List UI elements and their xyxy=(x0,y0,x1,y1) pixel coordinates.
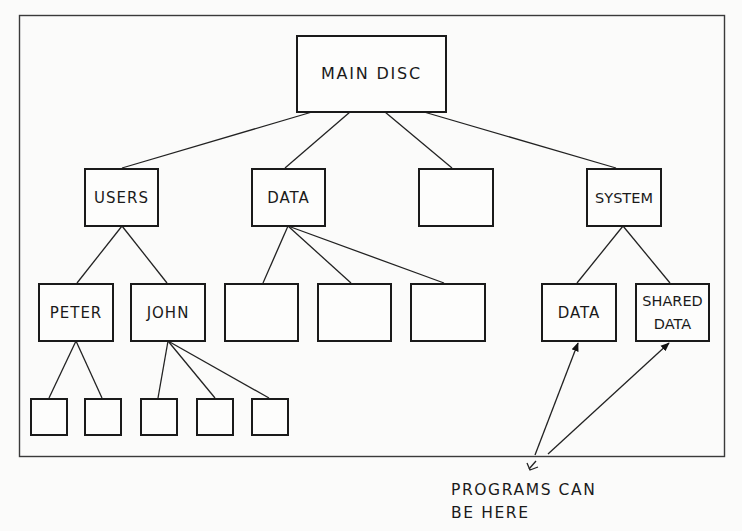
system-edges xyxy=(577,226,670,283)
node-label: DATA xyxy=(558,303,601,323)
peter-edges xyxy=(49,341,102,398)
caption-line-2: BE HERE xyxy=(451,502,596,525)
node-system-data: DATA xyxy=(541,283,617,342)
data-edges xyxy=(263,226,444,283)
node-john-child-3 xyxy=(251,398,289,436)
node-shared-data: SHARED DATA xyxy=(635,283,710,342)
node-john: JOHN xyxy=(130,283,206,342)
node-label: JOHN xyxy=(147,303,190,323)
node-label: USERS xyxy=(94,188,149,208)
node-data-child-2 xyxy=(317,283,392,342)
caption-line-1: PROGRAMS CAN xyxy=(451,479,596,502)
node-users: USERS xyxy=(84,168,159,227)
node-john-child-1 xyxy=(140,398,178,436)
node-data-child-1 xyxy=(224,283,299,342)
node-peter-child-1 xyxy=(30,398,68,436)
node-main-disc: MAIN DISC xyxy=(296,35,447,113)
node-data: DATA xyxy=(251,168,326,227)
node-label-line-2: DATA xyxy=(654,314,691,334)
node-label: DATA xyxy=(267,188,310,208)
node-label: SYSTEM xyxy=(595,188,653,208)
node-peter-child-2 xyxy=(84,398,122,436)
annotation-caption: PROGRAMS CAN BE HERE xyxy=(451,479,596,525)
node-system: SYSTEM xyxy=(586,168,662,227)
node-peter: PETER xyxy=(38,283,114,342)
arrow-to-shared-data xyxy=(548,343,669,454)
arrow-to-system-data xyxy=(535,343,578,455)
node-unnamed xyxy=(418,168,494,227)
node-data-child-3 xyxy=(410,283,486,342)
node-label: PETER xyxy=(50,303,103,323)
node-label-line-1: SHARED xyxy=(642,291,702,311)
annotation-arrows xyxy=(527,343,669,470)
root-edges xyxy=(122,112,616,168)
john-edges xyxy=(158,341,269,398)
node-label: MAIN DISC xyxy=(321,64,422,84)
node-john-child-2 xyxy=(196,398,234,436)
users-edges xyxy=(77,226,167,283)
